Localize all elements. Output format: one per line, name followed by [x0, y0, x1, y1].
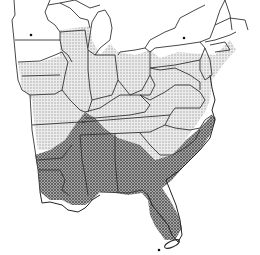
point-marker-florida-keys [158, 249, 161, 252]
range-map [0, 0, 260, 255]
point-marker-minnesota [30, 34, 33, 37]
point-marker-new-york [183, 37, 186, 40]
